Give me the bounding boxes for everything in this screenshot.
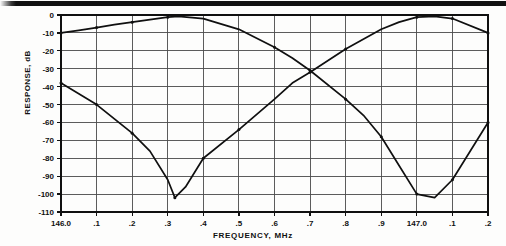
y-tick-label: -30 <box>42 65 54 74</box>
data-point-marker <box>451 17 454 20</box>
data-point-marker <box>380 135 383 138</box>
data-point-marker <box>487 121 490 124</box>
data-point-marker <box>60 31 63 34</box>
response-vs-frequency-chart: 0-10-20-30-40-50-60-70-80-90-100-110146.… <box>0 0 506 246</box>
x-tick-label: .2 <box>129 219 136 228</box>
x-tick-label: .2 <box>485 219 492 228</box>
x-tick-label: .3 <box>164 219 171 228</box>
y-tick-label: -100 <box>38 190 55 199</box>
y-tick-label: -90 <box>42 172 54 181</box>
data-point-marker <box>344 98 347 101</box>
data-point-marker <box>95 103 98 106</box>
x-tick-label: .8 <box>342 219 349 228</box>
y-tick-label: -10 <box>42 29 54 38</box>
data-point-marker <box>309 71 312 74</box>
data-point-marker <box>173 196 176 199</box>
x-tick-label: .6 <box>271 219 278 228</box>
y-tick-label: -110 <box>38 208 54 217</box>
x-tick-label: 146.0 <box>51 219 72 228</box>
x-tick-label: 147.0 <box>407 219 428 228</box>
data-point-marker <box>487 31 490 34</box>
data-point-marker <box>60 82 63 85</box>
y-tick-label: -40 <box>42 83 54 92</box>
data-point-marker <box>415 193 418 196</box>
data-point-marker <box>344 48 347 51</box>
y-axis-title: RESPONSE, dB <box>23 28 32 138</box>
data-point-marker <box>131 132 134 135</box>
x-tick-label: .1 <box>449 219 456 228</box>
x-axis-title: FREQUENCY, MHz <box>0 231 506 240</box>
data-point-marker <box>451 178 454 181</box>
data-point-marker <box>415 16 418 19</box>
y-tick-label: -20 <box>42 47 54 56</box>
y-tick-label: -70 <box>42 136 54 145</box>
figure-container: 0-10-20-30-40-50-60-70-80-90-100-110146.… <box>0 0 506 246</box>
y-tick-label: -60 <box>42 118 54 127</box>
x-tick-label: .5 <box>236 219 243 228</box>
y-tick-label: -80 <box>42 154 54 163</box>
x-tick-label: .4 <box>200 219 207 228</box>
x-tick-label: .1 <box>93 219 100 228</box>
y-tick-label: 0 <box>50 11 55 20</box>
data-point-marker <box>166 16 169 19</box>
data-point-marker <box>273 46 276 49</box>
x-tick-label: .7 <box>307 219 314 228</box>
data-point-marker <box>95 26 98 29</box>
x-tick-label: .9 <box>378 219 385 228</box>
y-tick-label: -50 <box>42 101 54 110</box>
data-point-marker <box>131 21 134 24</box>
data-point-marker <box>237 128 240 131</box>
data-point-marker <box>202 157 205 160</box>
